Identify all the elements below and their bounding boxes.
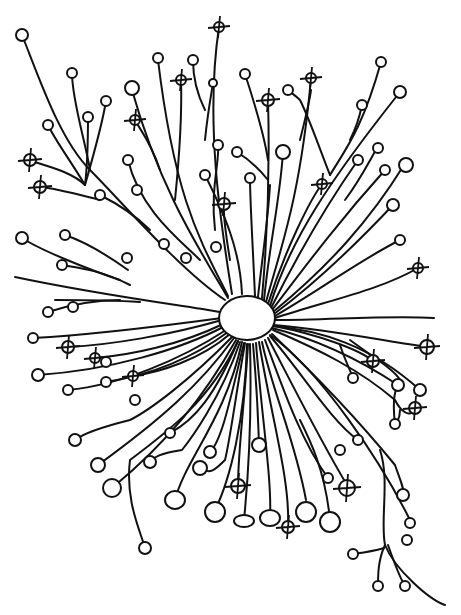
terminal: [376, 57, 386, 67]
dendrite: [135, 120, 160, 170]
dendrite: [274, 205, 393, 314]
terminal: [213, 140, 223, 150]
crosshair-icon: [170, 69, 192, 91]
crosshair-icon: [407, 257, 429, 279]
crosshair-icon: [208, 16, 230, 38]
crosshair-icon: [18, 148, 42, 172]
terminal: [353, 435, 363, 445]
terminal: [395, 235, 405, 245]
terminal: [101, 357, 111, 367]
terminal: [283, 85, 293, 95]
terminal: [68, 302, 78, 312]
dendrite: [275, 317, 434, 320]
soma: [219, 296, 275, 340]
crosshair-icon: [256, 88, 280, 112]
terminal: [260, 510, 280, 526]
terminal: [69, 434, 81, 446]
terminal: [211, 242, 221, 252]
terminal: [394, 86, 406, 98]
terminal: [252, 438, 266, 452]
terminal: [348, 549, 358, 559]
terminal: [60, 230, 70, 240]
terminal: [125, 81, 139, 95]
crosshair-icon: [403, 396, 427, 420]
dendrite: [62, 265, 130, 285]
terminal: [323, 473, 333, 483]
crosshair-icon: [300, 67, 322, 89]
terminal: [387, 199, 399, 211]
terminal: [193, 461, 207, 475]
terminal: [122, 253, 132, 263]
crosshair-icon: [414, 334, 440, 360]
terminal: [373, 581, 383, 591]
terminal: [400, 581, 410, 591]
terminal: [380, 165, 390, 175]
terminal: [83, 112, 93, 122]
terminal: [188, 55, 198, 65]
terminal: [101, 377, 111, 387]
terminal: [320, 512, 340, 532]
terminal: [139, 542, 151, 554]
terminal: [348, 373, 358, 383]
neuron-drawing: [0, 0, 461, 615]
terminal: [353, 155, 363, 165]
dendrite: [388, 545, 405, 586]
terminal: [357, 100, 367, 110]
terminal: [123, 155, 133, 165]
terminal: [57, 260, 67, 270]
terminal: [165, 491, 185, 509]
terminal: [132, 185, 142, 195]
terminal: [373, 143, 383, 153]
figure: [0, 0, 461, 615]
dendrite: [245, 74, 268, 160]
terminal: [159, 239, 169, 249]
terminal: [245, 173, 255, 183]
dendrite: [40, 187, 100, 200]
terminal: [414, 384, 426, 396]
terminal: [67, 68, 77, 78]
terminal: [91, 458, 105, 472]
terminal: [16, 29, 28, 41]
terminal: [405, 518, 415, 528]
crosshair-icon: [56, 335, 80, 359]
terminal: [232, 147, 242, 157]
terminal: [28, 333, 38, 343]
terminal: [209, 79, 217, 87]
terminal: [144, 456, 156, 468]
terminal: [200, 170, 210, 180]
terminal: [335, 445, 345, 455]
terminal: [399, 158, 413, 172]
terminal: [276, 145, 290, 159]
terminal: [204, 446, 216, 458]
dendrite: [48, 125, 85, 185]
terminal: [101, 96, 111, 106]
dendrite: [378, 545, 385, 586]
crosshair-icon: [333, 474, 361, 502]
dendrite: [65, 235, 128, 270]
terminal: [95, 190, 105, 200]
crosshair-icon: [28, 175, 52, 199]
crosshair-icon: [311, 173, 333, 195]
terminal: [390, 419, 400, 429]
dendrite: [205, 83, 213, 140]
terminal: [205, 502, 225, 522]
terminal: [296, 502, 316, 522]
terminal: [16, 232, 28, 244]
crosshair-icon: [122, 365, 144, 387]
dendrite: [193, 60, 205, 110]
terminal: [63, 385, 73, 395]
terminal: [130, 395, 140, 405]
terminal: [32, 369, 44, 381]
terminal: [153, 53, 163, 63]
crosshair-icon: [361, 349, 385, 373]
terminal: [181, 253, 191, 263]
terminal: [165, 428, 175, 438]
terminal: [392, 379, 404, 391]
dendrite: [272, 328, 398, 385]
terminal: [234, 515, 254, 527]
terminal: [397, 489, 409, 501]
terminal: [43, 120, 53, 130]
terminal: [402, 535, 412, 545]
terminal: [240, 69, 250, 79]
dendrite: [250, 178, 255, 296]
